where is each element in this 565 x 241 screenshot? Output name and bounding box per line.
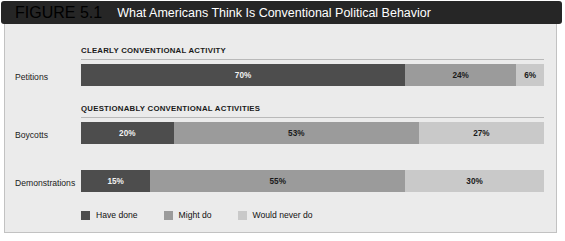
figure-number: FIGURE 5.1 [15, 4, 102, 22]
chart-plot-area: CLEARLY CONVENTIONAL ACTIVITY Petitions … [5, 32, 556, 232]
legend-swatch-icon [238, 211, 247, 220]
legend-item-might-do: Might do [164, 210, 212, 220]
legend-item-have-done: Have done [81, 210, 138, 220]
legend-item-would-never-do: Would never do [238, 210, 313, 220]
bar-row-petitions: 70% 24% 6% [81, 64, 544, 86]
legend-swatch-icon [81, 211, 90, 220]
bar-row-boycotts: 20% 53% 27% [81, 122, 544, 144]
legend-label: Would never do [253, 210, 313, 220]
legend-label: Might do [179, 210, 212, 220]
section-divider-2 [81, 117, 544, 118]
bar-segment-have-done: 70% [81, 64, 405, 86]
row-label-boycotts: Boycotts [15, 130, 48, 140]
bar-row-demonstrations: 15% 55% 30% [81, 170, 544, 192]
bar-segment-have-done: 15% [81, 170, 150, 192]
bar-segment-would-never-do: 6% [516, 64, 544, 86]
section-header-questionably-conventional: QUESTIONABLY CONVENTIONAL ACTIVITIES [81, 104, 260, 113]
figure-title-bar: FIGURE 5.1 What Americans Think Is Conve… [1, 1, 562, 24]
bar-segment-would-never-do: 27% [419, 122, 544, 144]
section-divider-1 [81, 59, 544, 60]
figure-container: FIGURE 5.1 What Americans Think Is Conve… [4, 8, 557, 233]
legend-label: Have done [96, 210, 138, 220]
row-label-petitions: Petitions [15, 72, 48, 82]
bar-segment-might-do: 24% [405, 64, 516, 86]
legend-swatch-icon [164, 211, 173, 220]
bar-segment-have-done: 20% [81, 122, 174, 144]
bar-segment-might-do: 53% [174, 122, 419, 144]
chart-legend: Have done Might do Would never do [81, 210, 339, 220]
figure-title: What Americans Think Is Conventional Pol… [117, 6, 431, 20]
section-header-clearly-conventional: CLEARLY CONVENTIONAL ACTIVITY [81, 46, 226, 55]
bar-segment-might-do: 55% [150, 170, 405, 192]
bar-segment-would-never-do: 30% [405, 170, 544, 192]
row-label-demonstrations: Demonstrations [15, 178, 75, 188]
